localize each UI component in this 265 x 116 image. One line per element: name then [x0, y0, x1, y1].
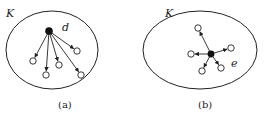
target-node	[199, 68, 205, 74]
target-node	[30, 58, 36, 64]
edge-arrow	[35, 34, 48, 58]
panel-a	[6, 11, 98, 89]
caption-b: (b)	[198, 99, 212, 110]
edge-arrow	[214, 49, 227, 53]
target-node	[56, 62, 62, 68]
set-ellipse	[143, 11, 257, 89]
target-node	[74, 48, 80, 54]
edge-arrow	[213, 56, 219, 64]
edge-arrow	[204, 57, 210, 68]
target-node	[78, 72, 84, 78]
edge-arrow	[51, 33, 73, 49]
edge-label-a: d	[62, 21, 69, 34]
source-node	[45, 27, 53, 35]
diagram-canvas: K d (a) K e (b)	[0, 0, 265, 116]
target-node	[43, 72, 49, 78]
set-label-b: K	[164, 7, 174, 20]
target-node	[195, 25, 201, 31]
set-label-a: K	[5, 7, 15, 20]
target-node	[218, 65, 224, 71]
edge-arrow	[46, 34, 49, 71]
edge-arrow	[200, 32, 210, 52]
edge-label-b: e	[231, 57, 238, 70]
panel-b	[143, 11, 257, 89]
source-node	[208, 51, 215, 58]
target-node	[228, 45, 234, 51]
set-ellipse	[6, 11, 98, 89]
target-node	[188, 51, 194, 57]
caption-a: (a)	[58, 99, 72, 110]
